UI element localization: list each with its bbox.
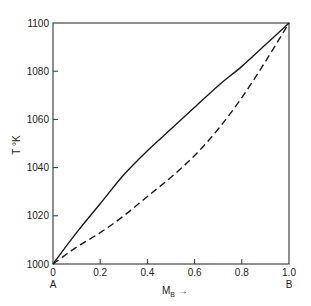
x-tick-label: 0.6 [188,267,202,278]
endpoint-annotations: AB [50,279,293,290]
plot-border [53,23,289,264]
endpoint-label-a: A [50,279,57,290]
x-axis-ticks: 00.20.40.60.81.0 [50,259,296,278]
x-tick-label: 0.2 [93,267,107,278]
y-tick-label: 1100 [27,18,49,29]
y-tick-label: 1080 [27,66,50,77]
x-axis-label-sub: B [170,291,175,298]
solid-curve [53,23,289,264]
x-axis-label: MB→ [162,285,188,298]
x-axis-label-main: M [162,285,170,296]
x-tick-label: 0.8 [235,267,249,278]
plot-frame [53,23,289,264]
x-tick-label: 1.0 [282,267,296,278]
y-tick-label: 1040 [27,162,50,173]
x-axis-arrow: → [178,285,188,296]
endpoint-label-b: B [286,279,293,290]
y-tick-label: 1020 [27,210,50,221]
data-series [53,23,289,264]
y-tick-label: 1000 [27,259,50,270]
x-tick-label: 0.4 [140,267,154,278]
dashed-curve [53,23,289,264]
y-tick-label: 1060 [27,114,50,125]
y-axis-label: T °K [11,135,22,155]
phase-diagram-chart: 100010201040106010801100 00.20.40.60.81.… [0,0,311,306]
x-tick-label: 0 [50,267,56,278]
